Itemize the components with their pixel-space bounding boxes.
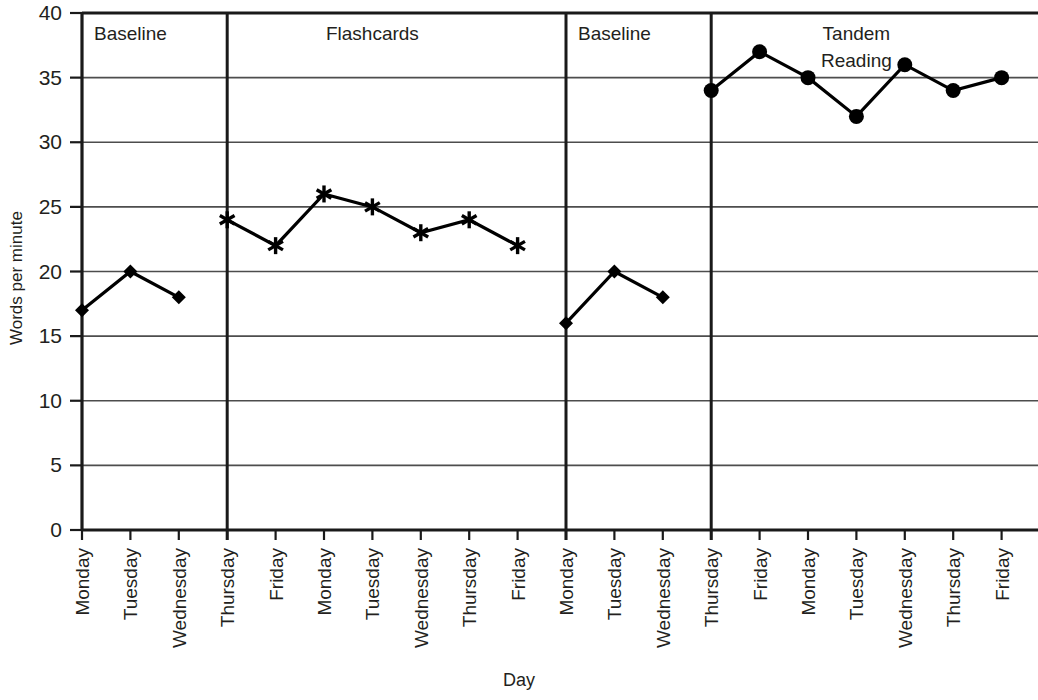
data-point-circle-marker <box>801 70 816 85</box>
x-tick-label: Thursday <box>701 548 722 628</box>
x-tick-label: Tuesday <box>362 548 383 621</box>
data-point-circle-marker <box>849 109 864 124</box>
y-tick-label: 15 <box>39 324 62 347</box>
x-tick-label: Friday <box>508 548 529 601</box>
x-tick-label: Monday <box>556 548 577 616</box>
phase-label: Tandem <box>823 23 891 44</box>
x-tick-label: Wednesday <box>411 548 432 648</box>
x-tick-label: Tuesday <box>604 548 625 621</box>
data-point-circle-marker <box>897 57 912 72</box>
x-tick-label: Thursday <box>217 548 238 628</box>
phase-label: Reading <box>821 50 892 71</box>
y-axis-title: Words per minute <box>7 211 26 345</box>
y-tick-label: 0 <box>50 518 62 541</box>
y-tick-label: 35 <box>39 66 62 89</box>
x-tick-label: Friday <box>266 548 287 601</box>
x-tick-label: Friday <box>992 548 1013 601</box>
phase-label: Baseline <box>578 23 651 44</box>
y-tick-label: 25 <box>39 195 62 218</box>
x-tick-label: Wednesday <box>653 548 674 648</box>
data-point-circle-marker <box>704 83 719 98</box>
x-tick-label: Thursday <box>459 548 480 628</box>
chart-figure: 0510152025303540 MondayTuesdayWednesdayT… <box>0 0 1038 700</box>
y-tick-label: 30 <box>39 130 62 153</box>
x-tick-label: Monday <box>72 548 93 616</box>
data-point-circle-marker <box>994 70 1009 85</box>
y-tick-label: 20 <box>39 260 62 283</box>
x-tick-label: Tuesday <box>120 548 141 621</box>
data-point-circle-marker <box>752 44 767 59</box>
x-tick-label: Thursday <box>943 548 964 628</box>
x-tick-label: Friday <box>750 548 771 601</box>
phase-label: Flashcards <box>326 23 419 44</box>
x-tick-label: Tuesday <box>846 548 867 621</box>
y-tick-label: 10 <box>39 389 62 412</box>
x-tick-label: Monday <box>798 548 819 616</box>
data-point-circle-marker <box>946 83 961 98</box>
x-tick-label: Monday <box>314 548 335 616</box>
y-tick-label: 5 <box>50 453 62 476</box>
x-tick-label: Wednesday <box>895 548 916 648</box>
phase-label: Baseline <box>94 23 167 44</box>
line-chart-svg: 0510152025303540 MondayTuesdayWednesdayT… <box>0 0 1038 700</box>
x-axis-title: Day <box>503 670 535 690</box>
x-tick-label: Wednesday <box>169 548 190 648</box>
y-tick-label: 40 <box>39 1 62 24</box>
